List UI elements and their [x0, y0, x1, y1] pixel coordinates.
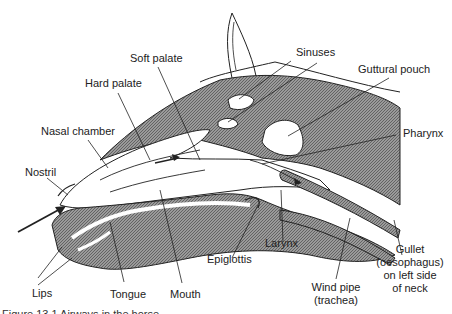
label-guttural-pouch: Guttural pouch — [358, 63, 430, 76]
label-nostril: Nostril — [25, 166, 56, 179]
label-soft-palate: Soft palate — [130, 52, 183, 65]
sinus-2 — [218, 118, 238, 128]
label-gullet-line2: (oesophagus) — [370, 256, 450, 269]
label-epiglottis: Epiglottis — [207, 253, 252, 266]
label-mouth: Mouth — [170, 288, 201, 301]
label-gullet-line4: of neck — [370, 282, 450, 295]
label-pharynx: Pharynx — [403, 127, 443, 140]
label-nasal-chamber: Nasal chamber — [41, 125, 115, 138]
label-gullet: Gullet (oesophagus) on left side of neck — [370, 243, 450, 295]
label-tongue: Tongue — [110, 288, 146, 301]
label-gullet-line1: Gullet — [370, 243, 450, 256]
ear — [228, 13, 257, 78]
label-wind-pipe: Wind pipe (trachea) — [306, 281, 366, 307]
label-wind-pipe-line1: Wind pipe — [306, 281, 366, 294]
figure-caption: Figure 13.1 Airways in the horse — [2, 308, 159, 314]
label-wind-pipe-line2: (trachea) — [306, 294, 366, 307]
label-larynx: Larynx — [265, 237, 298, 250]
label-hard-palate: Hard palate — [85, 77, 142, 90]
label-lips: Lips — [32, 287, 52, 300]
label-gullet-line3: on left side — [370, 269, 450, 282]
label-sinuses: Sinuses — [296, 46, 335, 59]
